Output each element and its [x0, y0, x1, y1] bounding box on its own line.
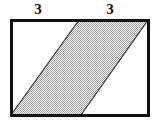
dimension-label-left: 3 — [26, 2, 50, 17]
geometry-figure: 3 3 — [0, 0, 159, 123]
dimension-label-right: 3 — [98, 2, 122, 17]
figure-canvas — [0, 0, 159, 123]
